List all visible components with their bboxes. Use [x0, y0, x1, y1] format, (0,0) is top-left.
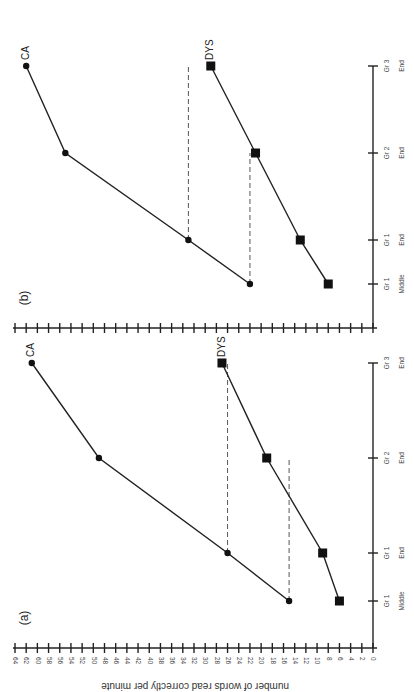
- category-sublabel: Middle: [398, 274, 405, 294]
- category-sublabel: End: [398, 452, 405, 464]
- value-tick-label: 24: [236, 657, 243, 665]
- value-tick-label: 40: [147, 657, 154, 665]
- data-point: [318, 549, 327, 558]
- series-line-ca: [26, 66, 250, 284]
- value-tick-label: 36: [169, 657, 176, 665]
- value-tick-label: 56: [57, 657, 64, 665]
- data-point: [96, 455, 102, 461]
- series-label: DYS: [204, 39, 215, 60]
- value-tick-label: 30: [202, 657, 209, 665]
- panel-label: (a): [17, 611, 31, 626]
- value-tick-label: 60: [35, 657, 42, 665]
- data-point: [217, 359, 226, 368]
- data-point: [335, 597, 344, 606]
- value-tick-label: 50: [91, 657, 98, 665]
- series-line-dys: [222, 363, 339, 601]
- value-tick-label: 8: [326, 657, 333, 661]
- value-tick-label: 14: [292, 657, 299, 665]
- category-sublabel: End: [398, 234, 405, 246]
- data-point: [23, 63, 29, 69]
- category-label: Gr 1: [383, 594, 390, 607]
- category-label: Gr 1: [383, 277, 390, 290]
- data-point: [296, 236, 305, 245]
- category-sublabel: End: [398, 60, 405, 72]
- value-tick-label: 46: [113, 657, 120, 665]
- series-label: CA: [20, 46, 31, 60]
- category-sublabel: Middle: [398, 591, 405, 611]
- category-label: Gr 2: [383, 451, 390, 464]
- panel-b: Gr 1MiddleGr 1EndGr 2EndGr 3EndCADYS(b): [13, 39, 405, 333]
- value-tick-label: 20: [258, 657, 265, 665]
- value-tick-label: 6: [337, 657, 344, 661]
- value-tick-label: 48: [102, 657, 109, 665]
- value-tick-label: 38: [158, 657, 165, 665]
- y-axis-title: number of words read correctly per minut…: [101, 681, 289, 692]
- panel-a: 0246810121416182022242628303234363840424…: [12, 336, 404, 692]
- value-tick-label: 26: [225, 657, 232, 665]
- series-line-dys: [211, 66, 328, 284]
- value-tick-label: 42: [135, 657, 142, 665]
- series-label: DYS: [216, 336, 227, 357]
- value-tick-label: 28: [214, 657, 221, 665]
- value-tick-label: 32: [191, 657, 198, 665]
- category-label: Gr 3: [383, 356, 390, 369]
- data-point: [286, 598, 292, 604]
- value-tick-label: 2: [359, 657, 366, 661]
- series-line-ca: [32, 363, 289, 601]
- reading-fluency-chart: Gr 1MiddleGr 1EndGr 2EndGr 3EndCADYS(b) …: [0, 0, 414, 692]
- data-point: [224, 550, 230, 556]
- value-tick-label: 62: [23, 657, 30, 665]
- category-label: Gr 2: [383, 146, 390, 159]
- value-tick-label: 64: [12, 657, 19, 665]
- value-tick-label: 0: [370, 657, 377, 661]
- category-sublabel: End: [398, 547, 405, 559]
- value-tick-label: 44: [124, 657, 131, 665]
- value-tick-label: 22: [247, 657, 254, 665]
- value-tick-label: 18: [270, 657, 277, 665]
- value-tick-label: 12: [303, 657, 310, 665]
- value-tick-label: 54: [68, 657, 75, 665]
- data-point: [185, 237, 191, 243]
- data-point: [206, 62, 215, 71]
- data-point: [324, 280, 333, 289]
- data-point: [251, 149, 260, 158]
- series-label: CA: [25, 343, 36, 357]
- value-tick-label: 4: [348, 657, 355, 661]
- data-point: [262, 454, 271, 463]
- data-point: [247, 281, 253, 287]
- category-sublabel: End: [398, 147, 405, 159]
- value-tick-label: 16: [281, 657, 288, 665]
- category-label: Gr 1: [383, 546, 390, 559]
- value-tick-label: 58: [46, 657, 53, 665]
- data-point: [62, 150, 68, 156]
- category-label: Gr 1: [383, 233, 390, 246]
- data-point: [29, 360, 35, 366]
- category-sublabel: End: [398, 357, 405, 369]
- value-tick-label: 52: [79, 657, 86, 665]
- panel-label: (b): [17, 291, 31, 306]
- value-tick-label: 10: [314, 657, 321, 665]
- value-tick-label: 34: [180, 657, 187, 665]
- category-label: Gr 3: [383, 59, 390, 72]
